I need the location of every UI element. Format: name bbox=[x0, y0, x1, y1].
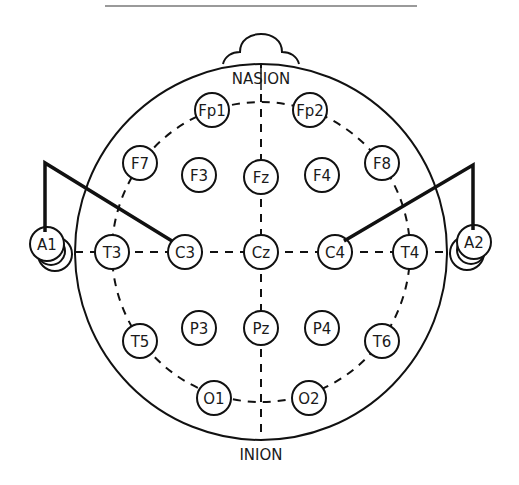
electrode-label: C3 bbox=[175, 244, 195, 262]
electrode-fz: Fz bbox=[244, 160, 278, 194]
electrode-a1: A1 bbox=[30, 227, 64, 261]
electrode-label: A2 bbox=[464, 234, 484, 252]
electrode-f8: F8 bbox=[365, 146, 399, 180]
electrode-label: T4 bbox=[400, 244, 420, 262]
electrode-fp2: Fp2 bbox=[293, 93, 327, 127]
nasion-label: NASION bbox=[232, 70, 290, 88]
nose-shape bbox=[223, 34, 299, 64]
electrode-a2: A2 bbox=[457, 225, 491, 259]
electrode-label: P4 bbox=[313, 320, 332, 338]
electrode-label: F3 bbox=[190, 167, 208, 185]
electrode-label: A1 bbox=[37, 236, 57, 254]
electrode-label: O2 bbox=[298, 390, 319, 408]
electrode-o2: O2 bbox=[292, 381, 326, 415]
electrode-t6: T6 bbox=[365, 324, 399, 358]
electrode-cz: Cz bbox=[244, 235, 278, 269]
electrode-label: F4 bbox=[313, 167, 331, 185]
electrode-f3: F3 bbox=[182, 158, 216, 192]
electrode-label: Fz bbox=[253, 169, 270, 187]
eeg-electrode-diagram: Fp1Fp2F7F3FzF4F8A1T3C3CzC4T4A2T5P3PzP4T6… bbox=[0, 0, 519, 485]
electrode-label: F7 bbox=[131, 155, 149, 173]
electrode-label: Fp2 bbox=[296, 102, 324, 120]
electrode-p4: P4 bbox=[305, 311, 339, 345]
electrode-label: Fp1 bbox=[198, 102, 226, 120]
inion-label: INION bbox=[239, 446, 282, 464]
electrode-t3: T3 bbox=[95, 235, 129, 269]
electrode-label: P3 bbox=[190, 320, 209, 338]
electrode-label: T6 bbox=[372, 333, 392, 351]
electrode-label: C4 bbox=[325, 244, 345, 262]
electrode-t5: T5 bbox=[123, 324, 157, 358]
electrode-label: T3 bbox=[102, 244, 122, 262]
electrode-pz: Pz bbox=[244, 311, 278, 345]
electrode-label: Cz bbox=[252, 244, 270, 262]
electrode-o1: O1 bbox=[197, 381, 231, 415]
electrode-label: O1 bbox=[203, 390, 224, 408]
electrode-fp1: Fp1 bbox=[195, 93, 229, 127]
electrode-label: F8 bbox=[373, 155, 391, 173]
electrode-t4: T4 bbox=[393, 235, 427, 269]
electrode-label: Pz bbox=[253, 320, 270, 338]
electrode-f4: F4 bbox=[305, 158, 339, 192]
electrode-c3: C3 bbox=[168, 235, 202, 269]
electrode-label: T5 bbox=[130, 333, 150, 351]
electrode-f7: F7 bbox=[123, 146, 157, 180]
electrode-p3: P3 bbox=[182, 311, 216, 345]
